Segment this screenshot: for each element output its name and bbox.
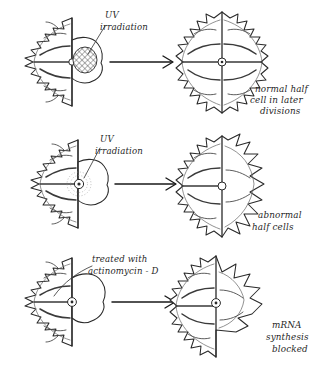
nucleus-dot-icon bbox=[215, 302, 218, 305]
half-cell-with-irradiated-cytoplasm bbox=[25, 18, 102, 106]
nucleus-dot-icon bbox=[77, 182, 80, 185]
abnormal-full-cell bbox=[176, 134, 264, 237]
row-uv-cytoplasm: UV irradiation normal half cell in later… bbox=[25, 10, 310, 116]
outcome-caption-line3: divisions bbox=[260, 106, 301, 116]
cell-rib bbox=[52, 144, 64, 150]
outcome-caption-abnormal: abnormal half cells bbox=[252, 210, 302, 232]
outcome-caption-line2: cell in later bbox=[250, 95, 303, 105]
outcome-caption-normal: normal half cell in later divisions bbox=[250, 84, 310, 116]
nucleus-dot-icon bbox=[71, 301, 74, 304]
transformation-arrow bbox=[112, 296, 175, 308]
diagram-canvas: UV irradiation normal half cell in later… bbox=[0, 0, 336, 372]
cell-rib bbox=[46, 262, 58, 268]
outcome-caption-line1: mRNA bbox=[272, 320, 302, 330]
outcome-caption-mrna-blocked: mRNA synthesis blocked bbox=[266, 320, 309, 354]
nucleus-circle bbox=[218, 182, 226, 190]
cell-bud-outline bbox=[72, 274, 105, 323]
treatment-label-line2: actinomycin - D bbox=[88, 266, 158, 276]
outcome-caption-line3: blocked bbox=[272, 344, 308, 354]
cell-rib bbox=[46, 96, 58, 102]
blocked-synthesis-cell bbox=[170, 256, 262, 357]
outcome-caption-line2: half cells bbox=[252, 222, 294, 232]
cell-rib bbox=[46, 22, 58, 28]
treatment-label-line1: UV bbox=[105, 10, 119, 20]
transformation-arrow bbox=[110, 56, 173, 68]
outcome-caption-line2: synthesis bbox=[266, 332, 309, 342]
diagram-figure: UV irradiation normal half cell in later… bbox=[0, 0, 336, 372]
cell-rib bbox=[52, 218, 64, 224]
cell-rib bbox=[46, 336, 58, 342]
treatment-label-line1: treated with bbox=[92, 254, 147, 264]
outcome-caption-line1: normal half bbox=[255, 84, 310, 94]
row-actinomycin: treated with actinomycin - D mRNA synthe… bbox=[25, 254, 309, 357]
transformation-arrow bbox=[115, 178, 176, 190]
treatment-label-line1: UV bbox=[100, 134, 114, 144]
treatment-label-line2: irradiation bbox=[95, 146, 143, 156]
nucleus-dot-icon bbox=[221, 61, 224, 64]
row-uv-nucleus: UV irradiation abnormal half cells bbox=[31, 134, 302, 237]
treatment-label-line2: irradiation bbox=[100, 22, 148, 32]
outcome-caption-line1: abnormal bbox=[258, 210, 302, 220]
irradiated-patch-icon bbox=[73, 47, 97, 73]
